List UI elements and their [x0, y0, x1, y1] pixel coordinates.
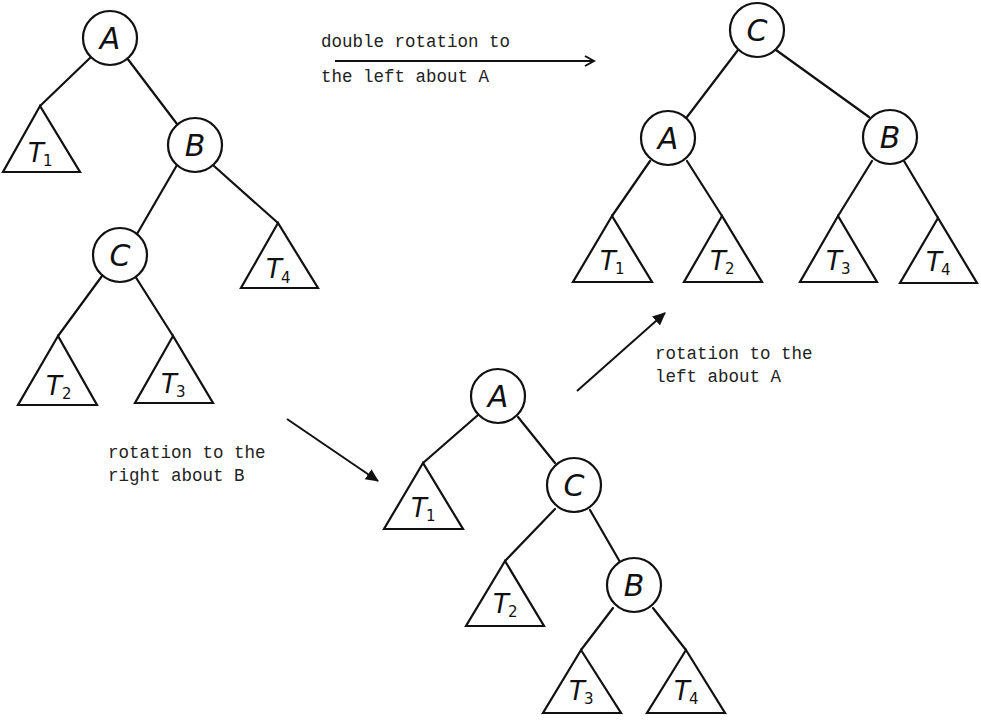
subtree-subscript: 3	[176, 383, 186, 401]
node-b: B	[607, 558, 661, 612]
node-label: A	[486, 379, 509, 414]
node-c: C	[730, 3, 784, 57]
caption-line-1: double rotation to	[321, 32, 510, 52]
subtree-t4: T 4	[647, 650, 725, 713]
edge-b-t3	[838, 161, 872, 216]
subtree-subscript: 1	[615, 260, 625, 278]
subtree-subscript: 4	[689, 690, 699, 708]
node-label: B	[880, 120, 901, 155]
subtree-subscript: 2	[508, 603, 518, 621]
edge-c-t2	[58, 276, 102, 336]
edge-c-a	[687, 50, 738, 117]
node-label: C	[747, 13, 768, 48]
avl-double-rotation-diagram: A B C T 1 T 4 T 2 T 3	[0, 0, 981, 723]
tree-intermediate: A C B T 1 T 2 T 3 T 4	[384, 369, 725, 713]
subtree-t2: T 2	[466, 561, 544, 626]
caption-line-2: left about A	[655, 367, 782, 387]
subtree-t1: T 1	[3, 106, 80, 172]
edge-b-t4	[214, 166, 278, 223]
node-label: B	[624, 568, 645, 603]
edge-b-t4	[653, 608, 686, 650]
edge-a-t1	[423, 415, 478, 463]
caption-line-2: the left about A	[321, 67, 490, 87]
edge-b-t3	[581, 608, 613, 650]
edge-a-t1	[612, 161, 650, 216]
subtree-subscript: 1	[426, 507, 436, 525]
node-label: C	[110, 238, 131, 273]
node-label: C	[564, 468, 585, 503]
tree-final: C A B T 1 T 2 T 3 T 4	[573, 3, 977, 283]
node-b: B	[168, 118, 222, 172]
arrow-diagonal-down-icon	[287, 419, 378, 481]
edge-c-b	[776, 50, 869, 117]
subtree-t4: T 4	[900, 218, 977, 283]
edge-a-c	[518, 417, 555, 463]
subtree-subscript: 4	[941, 261, 951, 279]
edge-c-t2	[505, 509, 555, 561]
node-c: C	[93, 228, 147, 282]
rotation-left-annotation: rotation to the left about A	[577, 313, 813, 391]
double-rotation-annotation: double rotation to the left about A	[321, 32, 594, 87]
subtree-subscript: 1	[43, 152, 53, 170]
node-b: B	[863, 110, 917, 164]
node-a: A	[641, 111, 695, 165]
rotation-right-annotation: rotation to the right about B	[108, 419, 378, 486]
subtree-subscript: 3	[584, 690, 594, 708]
tree-initial: A B C T 1 T 4 T 2 T 3	[3, 11, 318, 405]
caption-line-2: right about B	[108, 466, 245, 486]
edge-b-t4	[904, 161, 938, 218]
subtree-t3: T 3	[543, 650, 621, 713]
subtree-subscript: 3	[841, 260, 851, 278]
subtree-t1: T 1	[384, 463, 463, 529]
edge-b-c	[137, 165, 177, 234]
node-label: A	[98, 21, 121, 56]
node-label: A	[656, 121, 679, 156]
node-c: C	[547, 458, 601, 512]
edge-a-b	[127, 58, 177, 124]
arrow-diagonal-up-icon	[577, 313, 665, 391]
subtree-t2: T 2	[18, 336, 97, 405]
subtree-t1: T 1	[573, 216, 652, 282]
edge-a-t2	[687, 161, 722, 216]
subtree-t4: T 4	[241, 223, 318, 288]
edge-c-b	[590, 510, 620, 562]
node-a: A	[471, 369, 525, 423]
subtree-subscript: 2	[725, 260, 735, 278]
node-a: A	[83, 11, 137, 65]
subtree-t3: T 3	[800, 216, 877, 282]
node-label: B	[185, 128, 206, 163]
caption-line-1: rotation to the	[655, 344, 813, 364]
subtree-subscript: 2	[62, 385, 72, 403]
caption-line-1: rotation to the	[108, 443, 266, 463]
subtree-t3: T 3	[135, 336, 213, 403]
edge-c-t3	[135, 276, 173, 336]
subtree-subscript: 4	[281, 269, 291, 287]
edge-a-t1	[40, 57, 91, 106]
subtree-t2: T 2	[684, 216, 762, 282]
